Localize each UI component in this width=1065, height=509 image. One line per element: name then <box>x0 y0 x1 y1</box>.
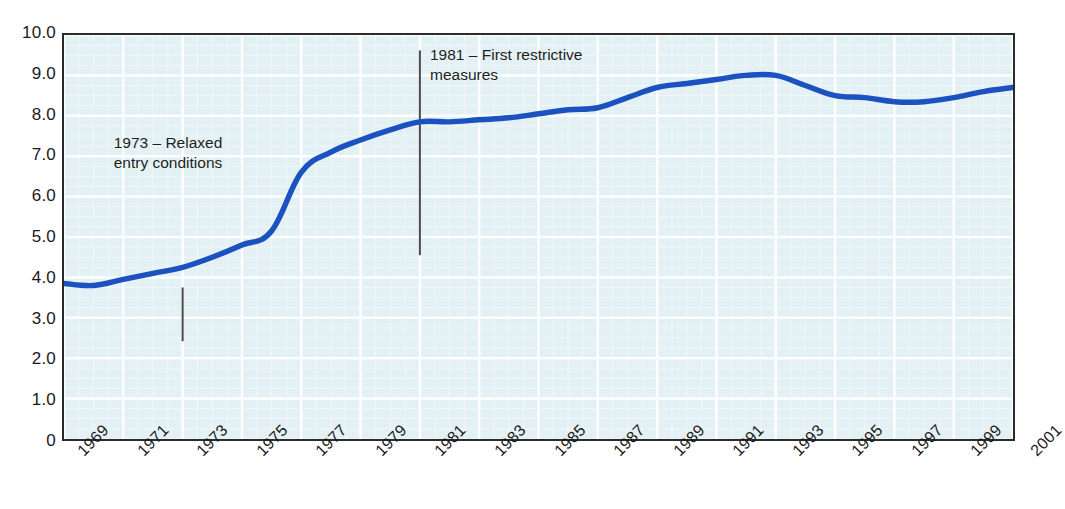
x-axis-tick-label: 1969 <box>74 447 87 460</box>
x-axis-tick-label: 1981 <box>431 447 444 460</box>
x-axis-tick-label: 1997 <box>908 447 921 460</box>
x-axis-tick-label: 1993 <box>789 447 802 460</box>
x-axis-tick-label: 1995 <box>848 447 861 460</box>
x-axis-tick-label: 1985 <box>551 447 564 460</box>
x-axis-tick-label: 1991 <box>729 447 742 460</box>
x-axis: 1969197119731975197719791981198319851987… <box>0 441 1039 509</box>
x-axis-tick-label: 1971 <box>134 447 147 460</box>
x-axis-tick-label: 1973 <box>193 447 206 460</box>
y-axis-tick-label: 10.0 <box>22 23 56 43</box>
annotation-1981: 1981 – First restrictive measures <box>430 45 670 85</box>
y-axis-tick-label: 3.0 <box>32 309 56 329</box>
y-axis-tick-label: 8.0 <box>32 105 56 125</box>
plot-area <box>62 33 1015 441</box>
x-axis-tick-label: 1977 <box>312 447 325 460</box>
y-axis-tick-label: 2.0 <box>32 349 56 369</box>
y-axis-tick-label: 6.0 <box>32 186 56 206</box>
x-axis-tick-label: 1987 <box>610 447 623 460</box>
y-axis-tick-label: 1.0 <box>32 390 56 410</box>
y-axis-tick-label: 7.0 <box>32 145 56 165</box>
y-axis-tick-label: 4.0 <box>32 268 56 288</box>
x-axis-tick-label: 1999 <box>967 447 980 460</box>
y-axis-tick-label: 9.0 <box>32 64 56 84</box>
plot-svg <box>64 35 1013 439</box>
x-axis-tick-label: 1979 <box>372 447 385 460</box>
x-axis-tick-label: 1975 <box>253 447 266 460</box>
x-axis-tick-label: 2001 <box>1027 447 1040 460</box>
y-axis-tick-label: 5.0 <box>32 227 56 247</box>
y-axis: 01.02.03.04.05.06.07.08.09.010.0 <box>0 0 56 509</box>
x-axis-tick-label: 1989 <box>670 447 683 460</box>
x-axis-tick-label: 1983 <box>491 447 504 460</box>
annotation-1973: 1973 – Relaxed entry conditions <box>93 133 243 173</box>
